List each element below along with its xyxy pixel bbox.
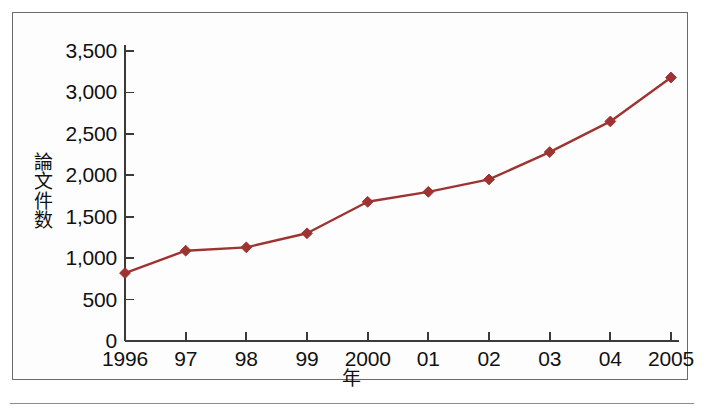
x-axis-tick-label: 2005 xyxy=(648,347,694,371)
x-axis-tick-label: 2000 xyxy=(345,347,391,371)
y-axis-tick-label: 1,500 xyxy=(13,205,117,229)
data-point-marker xyxy=(362,196,373,207)
y-axis-tick-label: 3,000 xyxy=(13,80,117,104)
y-axis-tick-label: 2,000 xyxy=(13,163,117,187)
data-point-marker xyxy=(241,242,252,253)
x-axis-tick-label: 04 xyxy=(599,347,622,371)
data-point-marker xyxy=(180,245,191,256)
data-point-marker xyxy=(484,174,495,185)
data-point-marker xyxy=(302,228,313,239)
x-axis-tick-label: 99 xyxy=(296,347,319,371)
x-axis-tick-label: 02 xyxy=(478,347,501,371)
data-point-marker xyxy=(423,186,434,197)
data-point-marker xyxy=(544,147,555,158)
figure-border-frame: 論文件数 年 05001,0001,5002,0002,5003,0003,50… xyxy=(12,12,688,380)
y-axis-tick-label: 1,000 xyxy=(13,246,117,270)
y-axis-tick-label: 3,500 xyxy=(13,39,117,63)
series-line xyxy=(125,78,671,274)
x-axis-tick-label: 01 xyxy=(417,347,440,371)
chart-plot-area: 論文件数 年 05001,0001,5002,0002,5003,0003,50… xyxy=(13,13,689,381)
x-axis-tick-label: 98 xyxy=(235,347,258,371)
y-axis-tick-label: 500 xyxy=(13,288,117,312)
y-axis-tick-label: 2,500 xyxy=(13,122,117,146)
x-axis-tick-label: 1996 xyxy=(102,347,148,371)
x-axis-tick-label: 03 xyxy=(538,347,561,371)
data-point-marker xyxy=(120,268,131,279)
figure-root: 論文件数 年 05001,0001,5002,0002,5003,0003,50… xyxy=(0,0,704,418)
x-axis-tick-label: 97 xyxy=(174,347,197,371)
line-chart-canvas xyxy=(13,13,689,381)
page-bottom-rule xyxy=(10,403,694,404)
